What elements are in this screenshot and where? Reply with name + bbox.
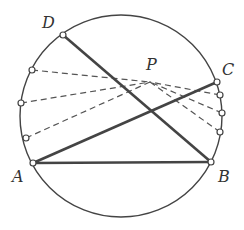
point-marker bbox=[29, 67, 35, 73]
chord-DB bbox=[63, 35, 211, 162]
label-B: B bbox=[217, 167, 230, 186]
point-marker bbox=[18, 100, 24, 106]
point-marker bbox=[217, 129, 223, 135]
label-A: A bbox=[10, 167, 24, 186]
point-marker bbox=[208, 159, 214, 165]
dashed-chord bbox=[26, 82, 150, 138]
dashed-chord bbox=[32, 70, 150, 82]
dashed-chords bbox=[21, 70, 222, 138]
point-marker bbox=[219, 110, 225, 116]
point-marker bbox=[214, 79, 220, 85]
chord-AC bbox=[33, 82, 217, 163]
point-marker bbox=[23, 135, 29, 141]
point-marker bbox=[30, 160, 36, 166]
label-C: C bbox=[222, 60, 234, 79]
point-marker bbox=[217, 92, 223, 98]
circle-chord-diagram: D C P A B bbox=[0, 0, 244, 230]
circle bbox=[20, 15, 222, 217]
point-marker bbox=[60, 32, 66, 38]
label-D: D bbox=[41, 13, 55, 32]
label-P: P bbox=[145, 55, 157, 74]
chord-AB bbox=[33, 162, 211, 163]
